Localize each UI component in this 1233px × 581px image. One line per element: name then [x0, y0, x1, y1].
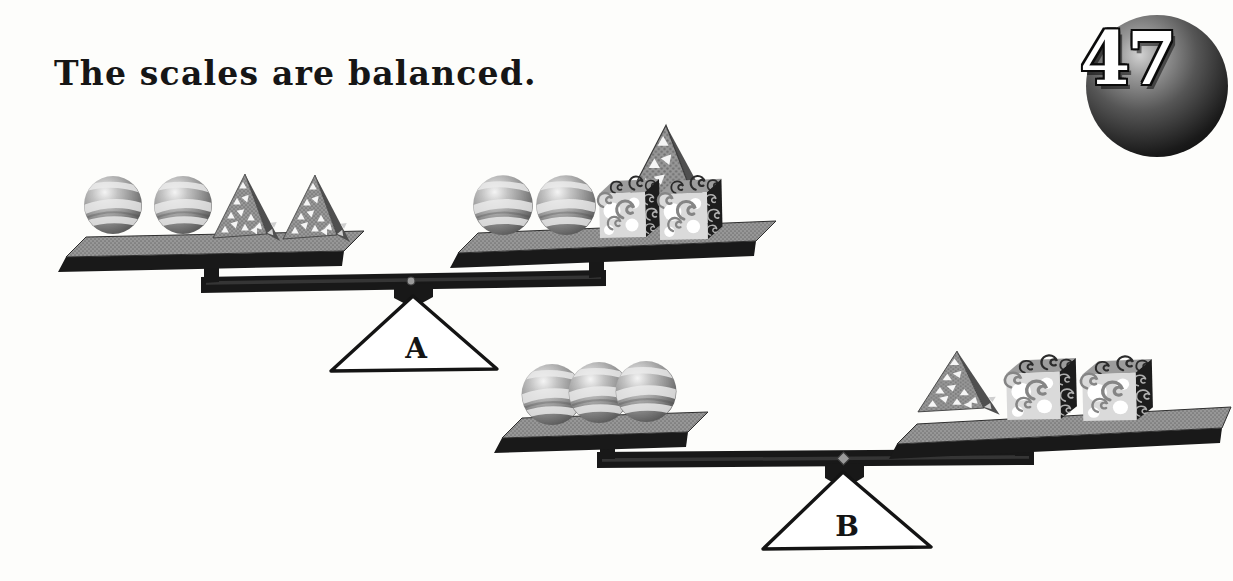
- scales-illustration: A B: [0, 0, 1233, 581]
- pan-objects: [918, 351, 1153, 421]
- pivot-dot: [407, 277, 415, 285]
- pan-objects: [521, 361, 678, 425]
- scale-label-a: A: [404, 332, 428, 365]
- sphere: [472, 175, 534, 235]
- scale-label-b: B: [835, 510, 859, 543]
- pyramid: [283, 175, 350, 242]
- sphere: [153, 176, 213, 234]
- sphere: [535, 175, 597, 235]
- scale-a-right-pan: [450, 125, 776, 268]
- scale-b-right-pan: [889, 351, 1231, 459]
- puzzle-page: The scales are balanced. 47: [0, 0, 1233, 581]
- cube: [1081, 356, 1153, 421]
- pan-objects: [83, 174, 350, 242]
- pyramid: [918, 351, 1000, 415]
- cube: [598, 176, 660, 238]
- scale-a-left-pan: [58, 174, 364, 272]
- pyramid: [213, 174, 280, 241]
- cube: [1005, 355, 1077, 420]
- balance-scale-b: B: [494, 351, 1231, 549]
- pan-objects: [472, 125, 722, 240]
- balance-scale-a: A: [58, 125, 776, 371]
- sphere: [83, 176, 143, 234]
- scale-b-left-pan: [494, 361, 708, 453]
